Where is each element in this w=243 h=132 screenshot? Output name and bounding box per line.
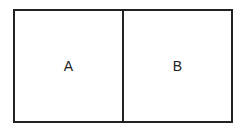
- cell-a: A: [15, 11, 122, 121]
- cell-b-label: B: [173, 58, 182, 74]
- cell-a-label: A: [64, 58, 73, 74]
- two-cell-diagram: A B: [13, 9, 233, 123]
- cell-b: B: [122, 11, 231, 121]
